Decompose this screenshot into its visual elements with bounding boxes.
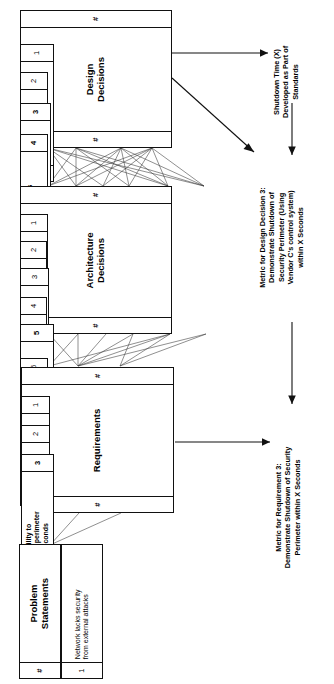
row-num-right: 3 — [21, 104, 50, 120]
row-num-right: 1 — [21, 215, 47, 231]
row-num-right: 2 — [21, 242, 46, 258]
row-text: Network lacks security from external att… — [62, 545, 102, 662]
problem-statements-row[interactable]: 1 Network lacks security from external a… — [61, 544, 103, 679]
requirements-num-header-right: # — [22, 368, 173, 384]
arrow-design4-to-shutdown — [172, 49, 268, 57]
note-metric-design-decision-3: Metric for Design Decision 3: Demonstrat… — [258, 155, 305, 320]
design-decisions-num-header-right: # — [21, 11, 171, 27]
problem-statements-title: Problem Statements — [20, 545, 60, 662]
note-metric-requirement-3: Metric for Requirement 3: Demonstrate Sh… — [274, 415, 302, 600]
row-num-right: 4 — [21, 298, 46, 314]
row-num-right: 4 — [21, 135, 47, 151]
note-shutdown-time: Shutdown Time (X) Developed as Part of S… — [272, 12, 300, 152]
problem-statements-num-header: # — [20, 662, 60, 678]
arrow-req3-to-metric-req3 — [175, 438, 270, 446]
row-num-right: 3 — [22, 455, 53, 471]
row-num-right: 1 — [22, 397, 49, 413]
diagram-canvas: # Design Decisions # 1 Vendor A IDS (Typ… — [0, 0, 334, 684]
row-num-right: 1 — [21, 45, 53, 61]
links-req-to-arch — [49, 334, 206, 366]
table-problem-statements: # Problem Statements — [19, 544, 61, 679]
links-arch-to-design — [48, 148, 204, 186]
row-num-right: 2 — [22, 426, 49, 442]
row-num-right: 5 — [21, 325, 53, 341]
row-num-right: 2 — [21, 73, 47, 89]
architecture-decisions-num-header-right: # — [21, 187, 171, 203]
arrow-metric-dd3-to-metric-req3 — [288, 322, 296, 404]
links-problem-to-req — [50, 513, 121, 545]
row-num: 1 — [62, 662, 102, 678]
row-num-right: 3 — [21, 269, 48, 285]
arrow-design4-to-metric-dd3 — [172, 78, 254, 152]
